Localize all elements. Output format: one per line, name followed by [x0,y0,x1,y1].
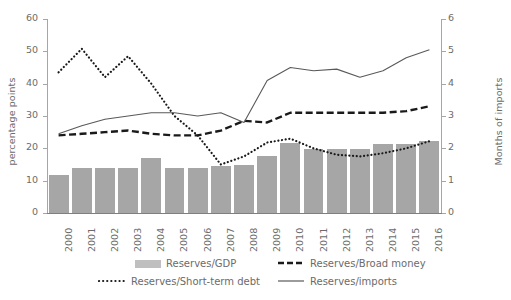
x-axis-labels: 2000200120022003200420052006200720082009… [47,214,441,256]
legend-row-bottom: Reserves/Short-term debt Reserves/import… [0,276,511,293]
y-axis-left-title: percentage points [6,67,17,177]
legend-item-reserves-short-term-debt: Reserves/Short-term debt [98,276,260,287]
y-tick-right [442,116,446,117]
x-tick-label: 2001 [86,228,97,252]
y-axis-right-title: Months of imports [493,67,504,177]
legend-label: Reserves/Short-term debt [131,276,260,287]
bar-swatch-icon [135,260,161,268]
x-tick-label: 2012 [341,228,352,252]
y-tick-label-right: 4 [448,77,470,88]
line-solid [59,50,430,134]
y-tick-left [43,51,47,52]
legend-item-reserves-broad-money: Reserves/Broad money [277,258,426,269]
y-tick-left [43,213,47,214]
legend-row-top: Reserves/GDP Reserves/Broad money [0,258,511,275]
x-tick-label: 2005 [178,228,189,252]
x-tick-label: 2013 [364,228,375,252]
x-tick-label: 2016 [433,228,444,252]
y-tick-left [43,19,47,20]
y-tick-left [43,84,47,85]
y-tick-left [43,116,47,117]
y-tick-right [442,148,446,149]
y-tick-label-right: 0 [448,206,470,217]
y-tick-right [442,213,446,214]
line-dotted [59,49,430,165]
x-tick-label: 2010 [294,228,305,252]
x-tick-label: 2007 [225,228,236,252]
legend-label: Reserves/GDP [166,258,236,269]
y-tick-label-left: 40 [16,77,38,88]
x-tick-label: 2003 [132,228,143,252]
x-tick-label: 2000 [63,228,74,252]
y-tick-label-left: 50 [16,44,38,55]
chart-container: percentage points Months of imports 0102… [0,0,511,300]
y-tick-label-right: 1 [448,174,470,185]
y-tick-label-left: 30 [16,109,38,120]
y-tick-left [43,181,47,182]
y-tick-label-right: 2 [448,141,470,152]
y-tick-right [442,19,446,20]
legend-label: Reserves/Broad money [310,258,426,269]
y-tick-right [442,181,446,182]
y-tick-label-right: 3 [448,109,470,120]
legend-item-reserves-imports: Reserves/imports [277,276,397,287]
y-tick-label-left: 0 [16,206,38,217]
x-tick-label: 2006 [202,228,213,252]
dashed-line-icon [277,258,305,269]
dotted-line-icon [98,276,126,287]
x-tick-label: 2008 [248,228,259,252]
x-tick-label: 2014 [387,228,398,252]
y-tick-label-right: 6 [448,12,470,23]
y-tick-left [43,148,47,149]
line-dashed [59,106,430,135]
y-tick-right [442,84,446,85]
x-tick-label: 2004 [155,228,166,252]
x-tick-label: 2009 [271,228,282,252]
legend-item-reserves-gdp: Reserves/GDP [135,258,236,269]
y-tick-label-left: 60 [16,12,38,23]
y-tick-right [442,51,446,52]
chart-legend: Reserves/GDP Reserves/Broad money Reserv… [0,258,511,300]
y-tick-label-left: 10 [16,174,38,185]
x-tick-label: 2002 [109,228,120,252]
legend-label: Reserves/imports [310,276,397,287]
x-tick-label: 2015 [410,228,421,252]
y-tick-label-right: 5 [448,44,470,55]
x-tick-label: 2011 [318,228,329,252]
line-series-layer [47,19,441,213]
solid-line-icon [277,276,305,287]
y-tick-label-left: 20 [16,141,38,152]
